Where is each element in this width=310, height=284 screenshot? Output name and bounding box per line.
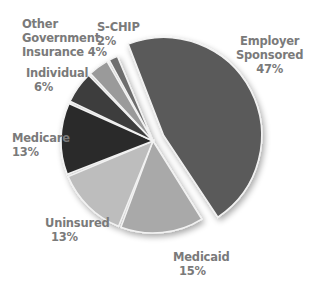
label-other-line1: Other [22,17,107,31]
label-other-government-insurance: Other Government Insurance 4% [22,17,107,59]
label-employer-line1: Employer [236,34,303,48]
label-medicaid: Medicaid 15% [173,250,230,278]
label-medicare-value: 13% [12,145,70,159]
label-other-line3-text: Insurance [22,45,84,59]
label-uninsured-name: Uninsured [45,216,110,230]
label-employer-value: 47% [236,62,303,76]
label-individual: Individual 6% [26,66,88,94]
label-individual-value: 6% [26,80,88,94]
label-individual-name: Individual [26,66,88,80]
label-other-value: 4% [88,45,107,59]
label-medicaid-name: Medicaid [173,250,230,264]
label-other-line3: Insurance 4% [22,45,107,59]
label-uninsured-value: 13% [45,230,110,244]
label-medicare-name: Medicare [12,131,70,145]
label-other-line2: Government [22,31,107,45]
label-uninsured: Uninsured 13% [45,216,110,244]
label-medicaid-value: 15% [173,264,230,278]
label-employer-sponsored: Employer Sponsored 47% [236,34,303,76]
label-medicare: Medicare 13% [12,131,70,159]
label-employer-line2: Sponsored [236,48,303,62]
